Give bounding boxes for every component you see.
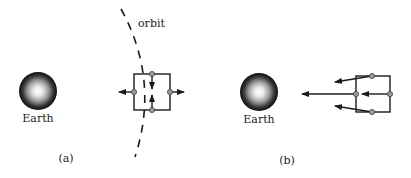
earth-label: Earth xyxy=(22,112,53,125)
earth-icon xyxy=(19,72,57,110)
caption-a: (a) xyxy=(58,152,73,165)
earth-label: Earth xyxy=(243,113,274,126)
panel-b: Earth (b) xyxy=(240,73,393,167)
earth-icon xyxy=(240,73,278,111)
panel-a: Earth orbit (a) xyxy=(19,9,184,165)
arrow-top-toward-earth xyxy=(335,76,372,82)
arrow-bottom-toward-earth xyxy=(335,106,372,112)
orbit-path xyxy=(121,9,145,157)
tidal-force-diagram: Earth orbit (a) Earth xyxy=(0,0,411,178)
caption-b: (b) xyxy=(279,154,295,167)
orbit-label: orbit xyxy=(138,17,165,30)
